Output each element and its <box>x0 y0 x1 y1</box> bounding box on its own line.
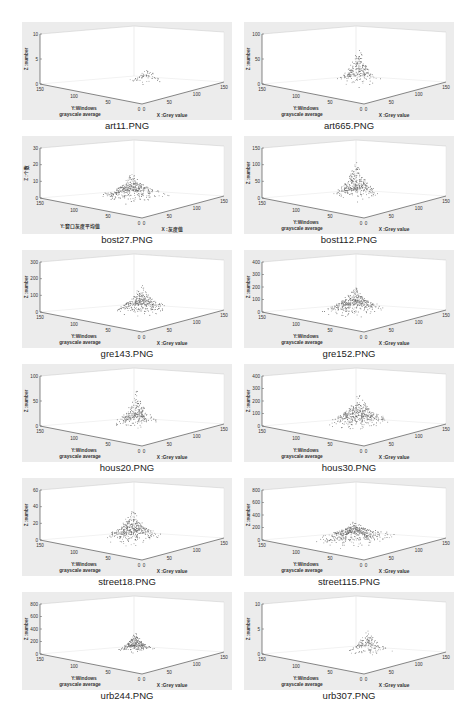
svg-text:X :Grey value: X :Grey value <box>157 113 188 118</box>
svg-text:X :Grey value: X :Grey value <box>379 569 410 574</box>
svg-text:150: 150 <box>258 315 266 320</box>
svg-text:Z :number: Z :number <box>246 504 251 527</box>
svg-text:Z :number: Z :number <box>246 618 251 641</box>
svg-text:100: 100 <box>252 411 260 416</box>
svg-text:0: 0 <box>138 449 141 454</box>
scatter3d-plot: 0200400600800Z :number050100150050100150… <box>22 592 232 690</box>
svg-text:0: 0 <box>365 335 368 340</box>
svg-text:150: 150 <box>442 655 450 660</box>
chart-panel-bost112: 050100150Z :number050100150050100150X :G… <box>240 136 458 250</box>
svg-text:0: 0 <box>143 449 146 454</box>
svg-text:X :Grey value: X :Grey value <box>379 341 410 346</box>
svg-text:150: 150 <box>220 313 228 318</box>
svg-text:0: 0 <box>360 449 363 454</box>
svg-text:100: 100 <box>252 297 260 302</box>
svg-text:grayscale average: grayscale average <box>281 112 323 117</box>
svg-text:200: 200 <box>252 285 260 290</box>
svg-text:grayscale average: grayscale average <box>281 454 323 459</box>
scatter3d-plot: 0100200300400Z :number050100150050100150… <box>244 364 454 462</box>
panel-caption: street115.PNG <box>240 576 458 590</box>
svg-text:Y:Windows: Y:Windows <box>71 334 97 339</box>
svg-text:Z :number: Z :number <box>24 276 29 299</box>
svg-text:100: 100 <box>292 436 300 441</box>
svg-text:150: 150 <box>258 543 266 548</box>
svg-text:150: 150 <box>442 199 450 204</box>
svg-text:50: 50 <box>167 670 173 675</box>
svg-text:50: 50 <box>389 214 395 219</box>
svg-text:50: 50 <box>327 670 333 675</box>
chart-panel-hous20: 050100Z :number050100150050100150X :Grey… <box>18 364 236 478</box>
svg-text:150: 150 <box>252 146 260 151</box>
svg-text:X :Grey value: X :Grey value <box>157 569 188 574</box>
svg-text:100: 100 <box>292 208 300 213</box>
svg-text:0: 0 <box>138 107 141 112</box>
svg-text:150: 150 <box>36 657 44 662</box>
svg-text:0: 0 <box>365 677 368 682</box>
svg-text:100: 100 <box>193 662 201 667</box>
svg-text:10: 10 <box>255 602 261 607</box>
svg-text:Y:Windows: Y:Windows <box>293 676 319 681</box>
chart-panel-urb244: 0200400600800Z :number050100150050100150… <box>18 592 236 706</box>
svg-text:grayscale average: grayscale average <box>281 226 323 231</box>
svg-text:0: 0 <box>138 221 141 226</box>
svg-text:50: 50 <box>327 328 333 333</box>
scatter3d-plot: 0100200300Z :number050100150050100150X :… <box>22 250 232 348</box>
svg-text:0: 0 <box>138 563 141 568</box>
svg-text:50: 50 <box>327 214 333 219</box>
svg-text:Y:Windows: Y:Windows <box>293 562 319 567</box>
svg-text:50: 50 <box>327 556 333 561</box>
svg-text:150: 150 <box>220 85 228 90</box>
svg-text:50: 50 <box>327 100 333 105</box>
svg-text:50: 50 <box>105 556 111 561</box>
svg-text:Y:Windows: Y:Windows <box>71 106 97 111</box>
svg-text:grayscale average: grayscale average <box>59 682 101 687</box>
svg-text:100: 100 <box>415 206 423 211</box>
svg-text:400: 400 <box>252 513 260 518</box>
svg-text:0: 0 <box>143 221 146 226</box>
svg-text:50: 50 <box>255 179 261 184</box>
svg-text:50: 50 <box>105 214 111 219</box>
scatter3d-plot: 0200400600800Z :number050100150050100150… <box>244 478 454 576</box>
panel-caption: urb244.PNG <box>18 690 236 704</box>
svg-text:600: 600 <box>30 614 38 619</box>
svg-text:0: 0 <box>138 335 141 340</box>
svg-text:0: 0 <box>365 221 368 226</box>
svg-text:100: 100 <box>292 550 300 555</box>
svg-text:50: 50 <box>389 670 395 675</box>
svg-text:200: 200 <box>252 525 260 530</box>
svg-text:400: 400 <box>252 260 260 265</box>
svg-text:Z :number: Z :number <box>246 162 251 185</box>
svg-text:grayscale average: grayscale average <box>59 340 101 345</box>
panel-caption: art665.PNG <box>240 120 458 134</box>
svg-text:0: 0 <box>360 221 363 226</box>
svg-text:5: 5 <box>257 627 260 632</box>
svg-text:150: 150 <box>258 657 266 662</box>
panel-caption: urb307.PNG <box>240 690 458 704</box>
svg-text:Z :number: Z :number <box>24 48 29 71</box>
svg-text:grayscale average: grayscale average <box>281 682 323 687</box>
chart-panel-art665: 050100Z :number050100150050100150X :Grey… <box>240 22 458 136</box>
svg-text:0: 0 <box>143 107 146 112</box>
svg-text:100: 100 <box>292 664 300 669</box>
svg-text:800: 800 <box>252 488 260 493</box>
svg-text:Y:Windows: Y:Windows <box>71 676 97 681</box>
svg-text:100: 100 <box>193 434 201 439</box>
svg-text:200: 200 <box>252 399 260 404</box>
panel-caption: bost27.PNG <box>18 234 236 248</box>
svg-text:10: 10 <box>33 179 39 184</box>
svg-text:X :Grey value: X :Grey value <box>157 455 188 460</box>
svg-text:100: 100 <box>252 162 260 167</box>
svg-text:150: 150 <box>36 87 44 92</box>
svg-text:150: 150 <box>442 427 450 432</box>
chart-panel-gre143: 0100200300Z :number050100150050100150X :… <box>18 250 236 364</box>
svg-text:150: 150 <box>36 543 44 548</box>
svg-text:0: 0 <box>360 677 363 682</box>
svg-text:grayscale average: grayscale average <box>59 112 101 117</box>
svg-text:100: 100 <box>70 322 78 327</box>
svg-text:150: 150 <box>258 429 266 434</box>
svg-text:40: 40 <box>33 504 39 509</box>
svg-text:100: 100 <box>415 92 423 97</box>
svg-text:0: 0 <box>365 449 368 454</box>
svg-text:Y:Windows: Y:Windows <box>293 106 319 111</box>
svg-text:100: 100 <box>70 550 78 555</box>
